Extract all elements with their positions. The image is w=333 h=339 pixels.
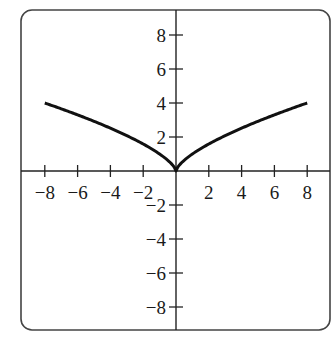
chart: −8−6−4−22468 −8−6−4−22468: [0, 0, 333, 339]
y-tick-label: −6: [146, 263, 166, 284]
x-tick-label: 4: [237, 182, 247, 203]
y-tick-label: −4: [146, 229, 167, 250]
x-tick-label: −8: [35, 182, 55, 203]
x-tick-label: −4: [100, 182, 121, 203]
x-tick-label: 6: [270, 182, 280, 203]
x-tick-label: 2: [204, 182, 214, 203]
y-tick-label: −8: [146, 297, 166, 318]
y-tick-label: 8: [157, 25, 167, 46]
y-tick-label: 6: [157, 59, 167, 80]
x-tick-label: 8: [302, 182, 312, 203]
y-tick-label: 2: [157, 127, 167, 148]
y-tick-label: 4: [157, 93, 167, 114]
x-tick-label: −6: [67, 182, 87, 203]
y-tick-label: −2: [146, 195, 166, 216]
